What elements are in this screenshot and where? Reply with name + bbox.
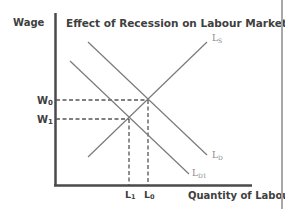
labour-market-diagram: Effect of Recession on Labour Markets Wa… <box>0 0 285 209</box>
right-border <box>281 0 283 209</box>
supply-curve-label: LS <box>212 33 222 44</box>
diagram-title: Effect of Recession on Labour Markets <box>66 17 285 29</box>
new-demand-curve-label: LD1 <box>192 168 207 179</box>
l0-label: L0 <box>144 189 155 201</box>
l1-label: L1 <box>125 189 136 201</box>
w0-label: W0 <box>37 95 53 107</box>
new-demand-curve <box>70 61 189 174</box>
w1-label: W1 <box>37 114 53 126</box>
demand-curve-label: LD <box>212 150 223 161</box>
x-axis-label: Quantity of Labour <box>188 190 285 201</box>
y-axis-label: Wage <box>13 17 45 28</box>
